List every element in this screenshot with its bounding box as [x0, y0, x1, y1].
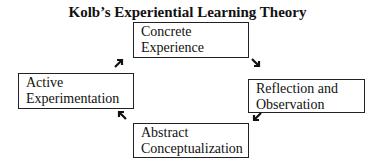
arrow-down-right-icon	[251, 58, 261, 68]
arrow-down-left-icon	[252, 112, 262, 122]
stage-active-experimentation: Active Experimentation	[18, 73, 134, 109]
arrow-up-right-icon	[114, 58, 124, 68]
stage-reflection-observation: Reflection and Observation	[248, 79, 365, 113]
diagram-title: Kolb’s Experiential Learning Theory	[0, 4, 375, 21]
stage-label-line2: Conceptualization	[141, 141, 248, 157]
stage-abstract-conceptualization: Abstract Conceptualization	[133, 123, 249, 158]
stage-label-line1: Active	[26, 75, 133, 91]
stage-label-line1: Concrete	[141, 24, 248, 40]
stage-label-line2: Experimentation	[26, 91, 133, 107]
stage-label-line2: Observation	[256, 97, 364, 113]
stage-label-line2: Experience	[141, 40, 248, 56]
stage-concrete-experience: Concrete Experience	[133, 22, 249, 58]
stage-label-line1: Abstract	[141, 125, 248, 141]
arrow-up-left-icon	[117, 110, 127, 120]
stage-label-line1: Reflection and	[256, 81, 364, 97]
